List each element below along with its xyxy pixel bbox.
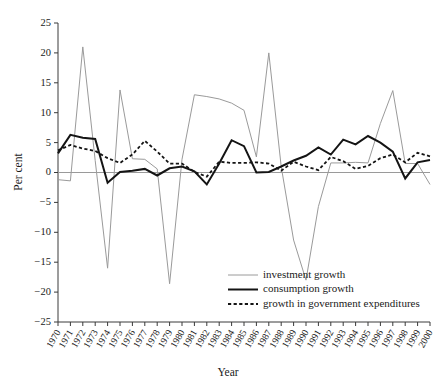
legend-label-government: growth in government expenditures: [263, 297, 420, 309]
series-lines: [58, 47, 430, 284]
x-axis: 1970197119721973197419751976197719781979…: [44, 322, 435, 350]
x-axis-title: Year: [217, 366, 238, 378]
y-axis-tick-label: −25: [35, 316, 51, 327]
y-axis-tick-label: −5: [40, 196, 51, 207]
y-axis: 2520151050−5−10−15−20−25: [35, 17, 58, 327]
x-axis-tick-label: 2000: [416, 327, 435, 349]
y-axis-tick-label: 15: [41, 77, 52, 88]
y-axis-tick-label: 25: [41, 17, 52, 28]
y-axis-tick-label: −20: [35, 286, 51, 297]
series-investment: [58, 47, 430, 284]
line-chart: 2520151050−5−10−15−20−25 197019711972197…: [0, 0, 442, 389]
y-axis-tick-label: 10: [41, 107, 52, 118]
legend-label-investment: investment growth: [263, 268, 346, 280]
legend-label-consumption: consumption growth: [263, 282, 354, 294]
y-axis-title: Per cent: [12, 153, 24, 191]
y-axis-tick-label: 0: [46, 166, 51, 177]
chart-legend: investment growthconsumption growthgrowt…: [228, 268, 420, 309]
chart-container: 2520151050−5−10−15−20−25 197019711972197…: [0, 0, 442, 389]
y-axis-tick-label: −15: [35, 256, 51, 267]
y-axis-tick-label: 5: [46, 137, 51, 148]
y-axis-tick-label: −10: [35, 226, 51, 237]
y-axis-tick-label: 20: [41, 47, 52, 58]
